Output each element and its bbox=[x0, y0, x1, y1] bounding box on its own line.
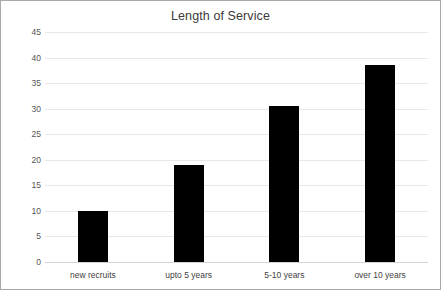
chart-container: Length of Service 051015202530354045 new… bbox=[0, 0, 441, 290]
x-tick-label: upto 5 years bbox=[165, 271, 212, 280]
y-tick-label: 25 bbox=[7, 130, 41, 139]
bar bbox=[78, 211, 108, 262]
bar bbox=[365, 65, 395, 262]
bar bbox=[174, 165, 204, 262]
y-tick-label: 40 bbox=[7, 53, 41, 62]
y-tick-label: 30 bbox=[7, 104, 41, 113]
y-tick-label: 20 bbox=[7, 156, 41, 165]
gridline bbox=[45, 32, 428, 33]
y-tick-label: 0 bbox=[7, 258, 41, 267]
x-axis-line bbox=[45, 262, 428, 263]
chart-title: Length of Service bbox=[1, 9, 440, 23]
y-tick-label: 45 bbox=[7, 28, 41, 37]
bar bbox=[269, 106, 299, 262]
gridline bbox=[45, 58, 428, 59]
x-tick-label: over 10 years bbox=[354, 271, 406, 280]
y-tick-label: 10 bbox=[7, 207, 41, 216]
x-tick-label: new recruits bbox=[70, 271, 116, 280]
y-tick-label: 35 bbox=[7, 79, 41, 88]
y-tick-label: 5 bbox=[7, 232, 41, 241]
y-tick-label: 15 bbox=[7, 181, 41, 190]
x-tick-label: 5-10 years bbox=[264, 271, 304, 280]
plot-area bbox=[45, 32, 428, 262]
y-axis: 051015202530354045 bbox=[1, 1, 41, 290]
